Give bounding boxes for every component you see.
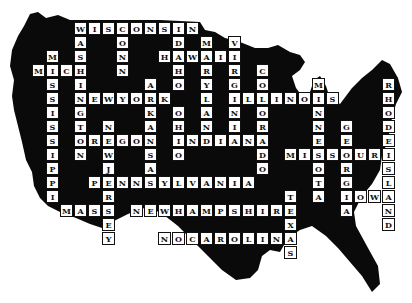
crossword-cell: O [298, 92, 311, 105]
crossword-cell: A [312, 190, 325, 203]
crossword-cell: O [312, 162, 325, 175]
crossword-cell: E [88, 92, 101, 105]
crossword-cell: O [130, 134, 143, 147]
crossword-cell: O [382, 106, 395, 119]
crossword-cell: I [382, 148, 395, 161]
crossword-cell: T [284, 190, 297, 203]
crossword-cell: Y [102, 232, 115, 245]
crossword-cell: S [382, 162, 395, 175]
crossword-cell: N [116, 50, 129, 63]
crossword-cell: H [172, 204, 185, 217]
crossword-cell: T [312, 176, 325, 189]
crossword-cell: S [228, 204, 241, 217]
crossword-cell: R [382, 78, 395, 91]
crossword-cell: E [102, 218, 115, 231]
crossword-cell: D [172, 36, 185, 49]
crossword-cell: W [102, 148, 115, 161]
crossword-cell: N [312, 120, 325, 133]
crossword-cell: S [46, 78, 59, 91]
crossword-cell: I [340, 190, 353, 203]
crossword-cell: O [340, 148, 353, 161]
crossword-cell: J [102, 162, 115, 175]
crossword-cell: D [200, 134, 213, 147]
crossword-cell: N [130, 204, 143, 217]
crossword-cell: A [144, 162, 157, 175]
crossword-cell: Y [158, 176, 171, 189]
crossword-cell: H [242, 204, 255, 217]
crossword-cell: I [228, 120, 241, 133]
crossword-cell: S [326, 92, 339, 105]
crossword-cell: M [200, 204, 213, 217]
crossword-cell: N [130, 176, 143, 189]
crossword-cell: E [102, 176, 115, 189]
crossword-cell: I [88, 22, 101, 35]
crossword-cell: N [214, 176, 227, 189]
crossword-cell: N [200, 120, 213, 133]
crossword-cell: I [172, 22, 185, 35]
crossword-cell: W [186, 50, 199, 63]
crossword-cell: O [74, 134, 87, 147]
crossword-cell: A [144, 78, 157, 91]
crossword-cell: Y [200, 78, 213, 91]
crossword-cell: R [228, 64, 241, 77]
crossword-cell: S [102, 204, 115, 217]
crossword-cell: N [144, 22, 157, 35]
crossword-cell: E [144, 204, 157, 217]
crossword-cell: A [200, 50, 213, 63]
crossword-cell: I [228, 92, 241, 105]
crossword-cell: M [32, 64, 45, 77]
crossword-cell: K [144, 106, 157, 119]
crossword-cell: O [172, 78, 185, 91]
crossword-cell: V [228, 36, 241, 49]
crossword-cell: O [116, 36, 129, 49]
crossword-grid: WISCONSINASHINGTONONNDAHOHWAIIMRYLANDVRG… [0, 0, 412, 303]
crossword-cell: E [382, 134, 395, 147]
crossword-cell: A [186, 204, 199, 217]
crossword-cell: I [228, 176, 241, 189]
crossword-cell: A [242, 176, 255, 189]
crossword-cell: S [46, 134, 59, 147]
crossword-cell: N [102, 120, 115, 133]
crossword-cell: L [200, 92, 213, 105]
crossword-cell: M [60, 204, 73, 217]
crossword-cell: R [256, 120, 269, 133]
crossword-cell: H [158, 50, 171, 63]
crossword-cell: A [340, 204, 353, 217]
crossword-cell: S [144, 176, 157, 189]
crossword-cell: M [284, 148, 297, 161]
crossword-cell: S [74, 50, 87, 63]
crossword-cell: Y [116, 92, 129, 105]
crossword-cell: W [158, 204, 171, 217]
crossword-cell: R [270, 204, 283, 217]
crossword-cell: R [88, 134, 101, 147]
crossword-cell: I [228, 50, 241, 63]
crossword-cell: L [242, 232, 255, 245]
crossword-cell: G [228, 78, 241, 91]
crossword-cell: E [312, 134, 325, 147]
crossword-cell: G [116, 134, 129, 147]
crossword-cell: C [60, 64, 73, 77]
crossword-cell: A [228, 134, 241, 147]
crossword-cell: O [130, 22, 143, 35]
crossword-cell: A [74, 36, 87, 49]
crossword-cell: M [200, 36, 213, 49]
crossword-cell: O [172, 106, 185, 119]
crossword-cell: A [144, 120, 157, 133]
crossword-cell: I [46, 148, 59, 161]
crossword-cell: A [200, 232, 213, 245]
crossword-cell: I [256, 204, 269, 217]
crossword-cell: A [200, 176, 213, 189]
crossword-cell: W [368, 190, 381, 203]
crossword-cell: N [158, 232, 171, 245]
crossword-cell: I [46, 106, 59, 119]
crossword-cell: A [284, 232, 297, 245]
crossword-cell: S [46, 120, 59, 133]
crossword-cell: E [340, 134, 353, 147]
crossword-cell: S [312, 148, 325, 161]
crossword-cell: G [340, 120, 353, 133]
crossword-cell: N [74, 92, 87, 105]
crossword-cell: W [74, 22, 87, 35]
crossword-cell: I [46, 190, 59, 203]
crossword-cell: S [326, 148, 339, 161]
crossword-cell: R [102, 190, 115, 203]
